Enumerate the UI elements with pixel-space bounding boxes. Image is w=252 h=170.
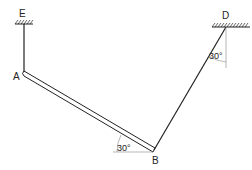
label-b: B (152, 155, 159, 166)
label-a: A (13, 71, 20, 82)
angle-label-b: 30° (117, 143, 131, 153)
diagram-canvas: E A B 30° D (0, 0, 252, 170)
label-e: E (19, 8, 26, 19)
angle-label-d: 30° (209, 51, 223, 61)
bar-ab (23, 71, 156, 152)
rod-bd (154, 27, 226, 150)
label-d: D (222, 10, 229, 21)
support-d (212, 23, 250, 27)
support-e (15, 20, 33, 24)
angle-marker-d (209, 27, 226, 68)
